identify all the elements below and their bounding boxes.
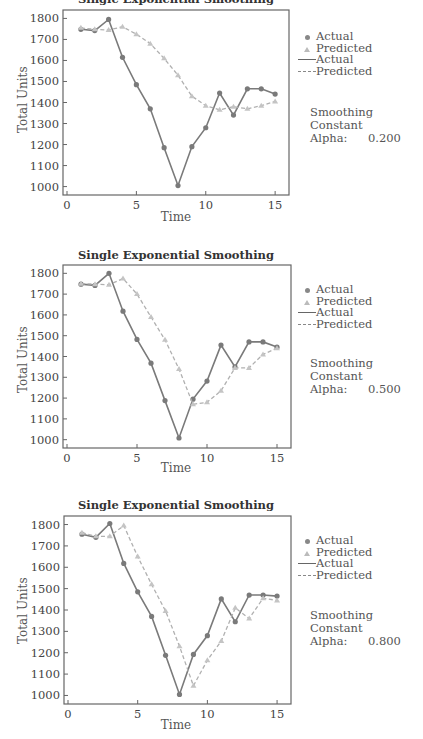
actual-point — [106, 271, 111, 276]
plot-frame — [64, 516, 291, 704]
y-tick-label: 1700 — [30, 287, 59, 301]
smoothing-constant-box: Smoothing Constant Alpha:0.200 — [310, 106, 423, 145]
predicted-point — [204, 399, 210, 404]
actual-point — [175, 183, 180, 188]
y-axis-label: Total Units — [16, 326, 30, 393]
actual-point — [246, 339, 251, 344]
predicted-point — [176, 366, 182, 371]
predicted-point — [106, 282, 112, 287]
dashed-line-icon — [298, 324, 316, 325]
y-tick-label: 1800 — [31, 518, 60, 532]
x-axis-label: Time — [63, 461, 289, 475]
predicted-point — [246, 616, 252, 621]
y-tick-label: 1600 — [31, 560, 60, 574]
solid-line-icon — [298, 563, 316, 564]
y-axis-label: Total Units — [16, 66, 30, 133]
predicted-point — [246, 365, 252, 370]
actual-line — [82, 524, 277, 695]
actual-point — [162, 398, 167, 403]
y-tick-label: 1300 — [30, 370, 59, 384]
alpha-label: Alpha: — [310, 132, 368, 145]
actual-point — [189, 144, 194, 149]
predicted-point — [218, 638, 224, 643]
legend: Actual Predicted Actual Predicted — [298, 31, 372, 77]
actual-point — [217, 90, 222, 95]
predicted-point — [162, 337, 168, 342]
predicted-point — [177, 643, 183, 648]
actual-point — [231, 113, 236, 118]
smoothing-constant-box: Smoothing Constant Alpha:0.500 — [310, 357, 423, 396]
y-tick-label: 1600 — [30, 308, 59, 322]
actual-point — [134, 337, 139, 342]
actual-point — [219, 596, 224, 601]
alpha-label: Alpha: — [310, 383, 368, 396]
predicted-point — [231, 104, 237, 109]
actual-point — [176, 435, 181, 440]
x-axis-label: Time — [63, 718, 289, 732]
predicted-point — [135, 554, 141, 559]
solid-line-icon — [298, 312, 316, 313]
predicted-point — [274, 597, 280, 602]
predicted-point — [78, 25, 84, 30]
y-tick-label: 1000 — [30, 433, 59, 447]
alpha-value: 0.800 — [368, 635, 401, 648]
actual-point — [260, 339, 265, 344]
y-tick-label: 1500 — [30, 74, 59, 88]
predicted-point — [190, 683, 196, 688]
smoothing-constant-label: Smoothing Constant — [310, 609, 423, 635]
y-tick-label: 1200 — [31, 646, 60, 660]
y-tick-label: 1500 — [30, 329, 59, 343]
predicted-line — [82, 526, 277, 686]
actual-point — [163, 653, 168, 658]
smoothing-constant-box: Smoothing Constant Alpha:0.800 — [310, 609, 423, 648]
y-tick-label: 1300 — [31, 624, 60, 638]
actual-point — [191, 652, 196, 657]
actual-point — [106, 17, 111, 22]
y-tick-label: 1200 — [30, 138, 59, 152]
triangle-marker-icon — [304, 47, 310, 52]
triangle-marker-icon — [304, 551, 310, 556]
smoothing-constant-label: Smoothing Constant — [310, 357, 423, 383]
y-tick-label: 1700 — [31, 539, 60, 553]
y-tick-label: 1300 — [30, 117, 59, 131]
y-tick-label: 1800 — [30, 266, 59, 280]
y-tick-label: 1400 — [31, 603, 60, 617]
actual-point — [177, 692, 182, 697]
dashed-line-icon — [298, 71, 316, 72]
y-tick-label: 1700 — [30, 32, 59, 46]
predicted-point — [272, 98, 278, 103]
actual-point — [233, 619, 238, 624]
predicted-point — [163, 608, 169, 613]
actual-point — [205, 633, 210, 638]
y-tick-label: 1400 — [30, 350, 59, 364]
actual-point — [203, 125, 208, 130]
predicted-line — [81, 27, 275, 110]
predicted-point — [121, 523, 127, 528]
predicted-point — [79, 530, 85, 535]
circle-marker-icon — [305, 35, 310, 40]
actual-point — [273, 91, 278, 96]
legend-item-predicted-line: Predicted — [298, 319, 372, 331]
legend: Actual Predicted Actual Predicted — [298, 535, 372, 581]
chart-panel-alpha-0-2: Single Exponential Smoothing 10001100120… — [0, 0, 423, 243]
predicted-point — [149, 581, 155, 586]
y-tick-label: 1500 — [31, 582, 60, 596]
actual-point — [120, 55, 125, 60]
chart-panel-alpha-0-5: Single Exponential Smoothing 10001100120… — [0, 245, 423, 490]
y-tick-label: 1000 — [31, 688, 60, 702]
plot-frame — [63, 10, 289, 195]
triangle-marker-icon — [304, 300, 310, 305]
plot-frame — [63, 265, 291, 448]
actual-line — [81, 273, 277, 438]
actual-point — [135, 589, 140, 594]
y-axis-label: Total Units — [16, 577, 30, 644]
y-tick-label: 1400 — [30, 96, 59, 110]
circle-marker-icon — [305, 288, 310, 293]
alpha-label: Alpha: — [310, 635, 368, 648]
x-axis-label: Time — [63, 210, 289, 224]
actual-point — [134, 82, 139, 87]
predicted-point — [232, 605, 238, 610]
smoothing-constant-label: Smoothing Constant — [310, 106, 423, 132]
alpha-value: 0.200 — [368, 132, 401, 145]
predicted-point — [120, 276, 126, 281]
